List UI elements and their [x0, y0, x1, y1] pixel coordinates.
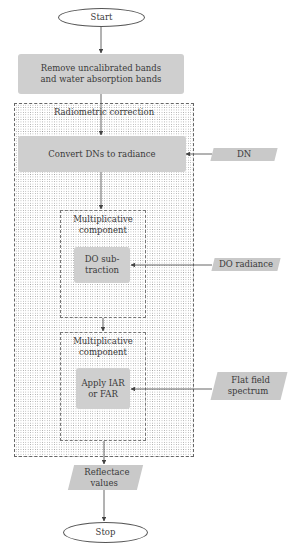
flat-line2: spectrum: [227, 386, 268, 397]
do-line1: DO sub-: [85, 254, 120, 265]
dn-label: DN: [237, 149, 251, 160]
refl-line1: Reflectace: [84, 467, 129, 478]
flat-field-input: Flat field spectrum: [211, 372, 288, 400]
refl-line2: values: [90, 478, 117, 489]
start-label: Start: [91, 12, 113, 23]
convert-dn-process: Convert DNs to radiance: [18, 136, 186, 172]
apply-line1: Apply IAR: [81, 378, 124, 389]
dn-input: DN: [210, 148, 277, 161]
do-subtraction-process: DO sub- traction: [74, 247, 130, 283]
flat-line1: Flat field: [231, 375, 270, 386]
stop-terminal: Stop: [63, 522, 148, 543]
do-radiance-input: DO radiance: [211, 258, 280, 271]
apply-line2: or FAR: [88, 389, 118, 400]
start-terminal: Start: [58, 8, 145, 27]
do-radiance-label: DO radiance: [219, 259, 273, 270]
convert-label: Convert DNs to radiance: [48, 149, 155, 160]
remove-line1: Remove uncalibrated bands: [41, 63, 161, 74]
remove-bands-process: Remove uncalibrated bands and water abso…: [18, 54, 184, 94]
apply-iar-far-process: Apply IAR or FAR: [76, 368, 130, 409]
reflectance-output: Reflectace values: [68, 465, 143, 490]
stop-label: Stop: [96, 527, 116, 538]
do-line2: traction: [85, 265, 119, 276]
remove-line2: and water absorption bands: [41, 74, 162, 85]
